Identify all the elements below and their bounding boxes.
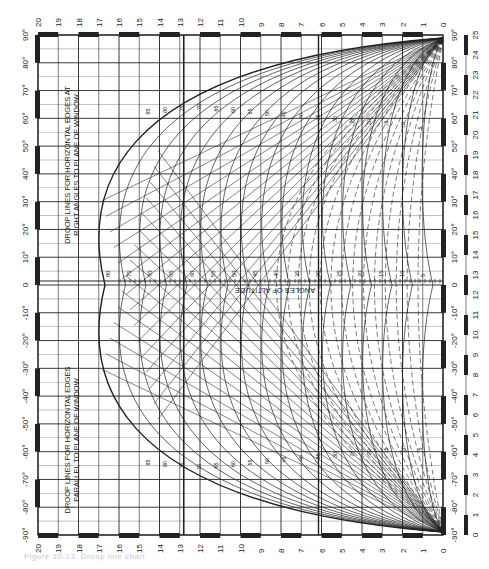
svg-text:18: 18 (75, 18, 84, 27)
svg-text:10: 10 (400, 446, 406, 452)
svg-text:-30°: -30° (21, 361, 30, 376)
svg-text:-80°: -80° (21, 500, 30, 515)
svg-text:60: 60 (230, 461, 236, 467)
svg-text:PARALLEL TO PLANE OF WINDOW: PARALLEL TO PLANE OF WINDOW (72, 377, 81, 501)
svg-text:20°: 20° (21, 223, 30, 235)
svg-text:13: 13 (471, 270, 480, 279)
svg-text:15: 15 (383, 447, 389, 453)
svg-text:0: 0 (439, 548, 448, 553)
svg-text:16: 16 (115, 18, 124, 27)
svg-text:20: 20 (34, 18, 43, 27)
svg-text:75: 75 (126, 270, 132, 277)
svg-text:30: 30 (315, 270, 321, 277)
svg-text:45: 45 (252, 270, 258, 277)
svg-text:40: 40 (273, 270, 279, 277)
svg-text:30°: 30° (21, 196, 30, 208)
svg-text:0: 0 (471, 532, 480, 537)
svg-text:40: 40 (298, 113, 304, 119)
svg-text:12: 12 (196, 544, 205, 553)
svg-text:13: 13 (176, 18, 185, 27)
svg-text:90°: 90° (450, 29, 459, 41)
svg-text:8: 8 (471, 372, 480, 377)
svg-text:75: 75 (179, 105, 185, 111)
svg-text:-50°: -50° (21, 417, 30, 432)
svg-text:ANGLES OF ALTITUDE: ANGLES OF ALTITUDE (235, 286, 315, 295)
svg-text:11: 11 (216, 544, 225, 553)
svg-text:21: 21 (471, 110, 480, 119)
svg-text:45: 45 (281, 456, 287, 462)
svg-text:12: 12 (196, 18, 205, 27)
svg-text:2: 2 (471, 492, 480, 497)
svg-text:20: 20 (471, 130, 480, 139)
svg-text:20: 20 (357, 270, 363, 277)
svg-text:75: 75 (179, 462, 185, 468)
svg-text:25: 25 (336, 270, 342, 277)
svg-text:-60°: -60° (21, 444, 30, 459)
svg-text:6: 6 (318, 22, 327, 27)
svg-text:6: 6 (471, 412, 480, 417)
svg-text:12: 12 (471, 290, 480, 299)
svg-text:55: 55 (210, 270, 216, 277)
svg-text:45: 45 (281, 111, 287, 117)
svg-text:9: 9 (471, 352, 480, 357)
svg-text:DROOP LINES FOR HORIZONTAL EDG: DROOP LINES FOR HORIZONTAL EDGES (63, 367, 72, 514)
svg-text:18: 18 (471, 170, 480, 179)
svg-text:15: 15 (378, 270, 384, 277)
svg-text:80°: 80° (21, 57, 30, 69)
svg-text:7: 7 (471, 392, 480, 397)
svg-text:20: 20 (366, 119, 372, 125)
svg-text:5: 5 (338, 22, 347, 27)
svg-text:40°: 40° (450, 168, 459, 180)
svg-text:-80°: -80° (450, 500, 459, 515)
svg-text:1: 1 (419, 548, 428, 553)
svg-text:7: 7 (297, 548, 306, 553)
svg-text:RIGHT ANGLES TO PLANE OF WINDO: RIGHT ANGLES TO PLANE OF WINDOW (72, 93, 81, 236)
svg-text:19: 19 (54, 18, 63, 27)
svg-text:50°: 50° (21, 140, 30, 152)
svg-text:85: 85 (145, 108, 151, 114)
svg-text:2: 2 (399, 548, 408, 553)
svg-text:15: 15 (135, 18, 144, 27)
svg-text:8: 8 (277, 548, 286, 553)
svg-text:-10°: -10° (21, 305, 30, 320)
svg-text:14: 14 (156, 544, 165, 553)
svg-text:90°: 90° (21, 29, 30, 41)
svg-text:60: 60 (230, 107, 236, 113)
svg-text:14: 14 (156, 18, 165, 27)
svg-text:13: 13 (176, 544, 185, 553)
svg-text:5: 5 (471, 432, 480, 437)
svg-text:80: 80 (162, 461, 168, 467)
svg-text:15: 15 (471, 230, 480, 239)
svg-text:80: 80 (105, 270, 111, 277)
svg-text:25: 25 (349, 117, 355, 123)
svg-text:-10°: -10° (450, 305, 459, 320)
svg-text:70: 70 (196, 464, 202, 470)
svg-text:10°: 10° (21, 251, 30, 263)
svg-text:19: 19 (471, 150, 480, 159)
svg-text:60°: 60° (21, 112, 30, 124)
svg-text:0: 0 (450, 282, 459, 287)
svg-text:10: 10 (237, 18, 246, 27)
svg-text:70°: 70° (450, 85, 459, 97)
svg-text:16: 16 (471, 210, 480, 219)
svg-text:-60°: -60° (450, 444, 459, 459)
svg-text:10°: 10° (450, 251, 459, 263)
svg-text:1: 1 (419, 22, 428, 27)
svg-text:-90°: -90° (21, 528, 30, 543)
svg-text:25: 25 (349, 450, 355, 456)
droop-line-chart: 2019181716151413121110987654321020191817… (0, 0, 489, 569)
svg-text:14: 14 (471, 250, 480, 259)
svg-text:17: 17 (471, 190, 480, 199)
svg-text:-90°: -90° (450, 528, 459, 543)
svg-text:-50°: -50° (450, 417, 459, 432)
svg-text:24: 24 (471, 50, 480, 59)
svg-text:40: 40 (298, 455, 304, 461)
svg-text:30: 30 (332, 116, 338, 122)
svg-text:-20°: -20° (21, 333, 30, 348)
svg-text:50: 50 (231, 270, 237, 277)
svg-text:3: 3 (471, 472, 480, 477)
figure-caption: Figure 10-13. Droop line chart (24, 552, 145, 561)
svg-text:55: 55 (247, 108, 253, 114)
svg-text:10: 10 (400, 122, 406, 128)
svg-text:70: 70 (147, 270, 153, 277)
